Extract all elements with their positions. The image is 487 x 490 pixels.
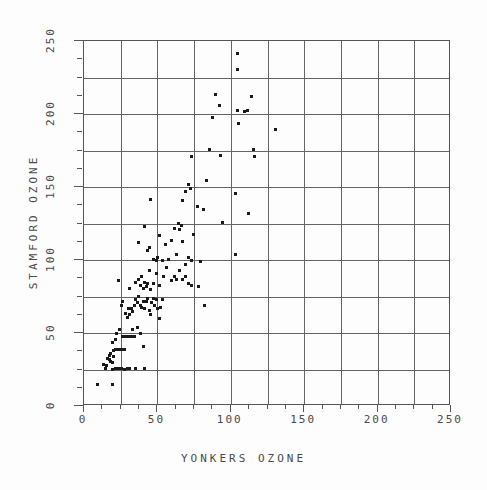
x-tick-label: 200 [364,413,390,426]
data-point [123,348,126,351]
data-point [170,279,173,282]
gridline-vertical [194,41,195,404]
data-point [111,341,114,344]
data-point [134,281,137,284]
data-point [192,233,195,236]
y-tick-major [74,259,83,260]
gridline-vertical [414,41,415,404]
y-tick-label: 250 [44,27,57,53]
data-point [156,256,159,259]
data-point [149,288,152,291]
gridline-vertical [304,41,305,404]
x-tick-major [450,405,451,412]
x-tick-major [230,405,231,412]
data-point [111,361,114,364]
x-tick-minor [138,405,139,409]
gridline-horizontal [84,151,449,152]
data-point [175,278,178,281]
y-tick-major [74,186,83,187]
data-point [124,312,127,315]
data-point [202,208,205,211]
y-tick-minor [77,350,82,351]
data-point [236,109,239,112]
data-point [136,326,139,329]
data-point [190,284,193,287]
x-tick-minor [101,405,102,409]
x-tick-minor [193,405,194,409]
data-point [139,332,142,335]
data-point [253,155,256,158]
data-point [180,224,183,227]
x-tick-label: 150 [290,413,316,426]
data-point [105,364,108,367]
y-tick-minor [77,150,82,151]
data-point [158,234,161,237]
data-point [111,383,114,386]
y-tick-label: 150 [44,173,57,199]
data-point [211,116,214,119]
data-point [173,227,176,230]
gridline-horizontal [84,78,449,79]
data-point [246,109,249,112]
data-point [148,246,151,249]
data-point [126,316,129,319]
data-point [178,269,181,272]
data-point [158,284,161,287]
x-tick-minor [267,405,268,409]
gridline-vertical [268,41,269,404]
data-point [131,328,134,331]
x-tick-minor [358,405,359,409]
x-tick-minor [395,405,396,409]
y-tick-major [74,113,83,114]
data-point [161,298,164,301]
y-tick-minor [77,387,82,388]
data-point [128,367,131,370]
y-tick-minor [77,168,82,169]
data-point [236,68,239,71]
data-point [234,253,237,256]
data-point [146,249,149,252]
x-tick-major [377,405,378,412]
gridline-vertical [231,41,232,404]
data-point [148,309,151,312]
data-point [252,148,255,151]
y-tick-minor [77,314,82,315]
x-tick-minor [322,405,323,409]
data-point [165,266,168,269]
data-point [118,328,121,331]
data-point [237,122,240,125]
data-point [181,278,184,281]
gridline-vertical [157,41,158,404]
data-point [155,298,158,301]
gridline-horizontal [84,224,449,225]
data-point [142,345,145,348]
y-tick-label: 0 [44,401,57,410]
data-point [190,155,193,158]
x-tick-minor [211,405,212,409]
data-point [197,285,200,288]
data-point [236,52,239,55]
data-point [196,205,199,208]
data-point [143,367,146,370]
gridline-vertical [378,41,379,404]
y-tick-minor [77,223,82,224]
data-point [250,95,253,98]
data-point [221,221,224,224]
data-point [145,300,148,303]
data-point [143,307,146,310]
x-tick-minor [175,405,176,409]
y-tick-label: 50 [44,323,57,340]
x-tick-label: 250 [437,413,463,426]
y-tick-minor [77,296,82,297]
data-point [117,279,120,282]
x-tick-major [156,405,157,412]
data-point [205,179,208,182]
data-point [161,259,164,262]
data-point [175,253,178,256]
data-point [178,228,181,231]
data-point [104,367,107,370]
data-point [133,335,136,338]
x-tick-minor [120,405,121,409]
y-tick-minor [77,131,82,132]
data-point [162,275,165,278]
